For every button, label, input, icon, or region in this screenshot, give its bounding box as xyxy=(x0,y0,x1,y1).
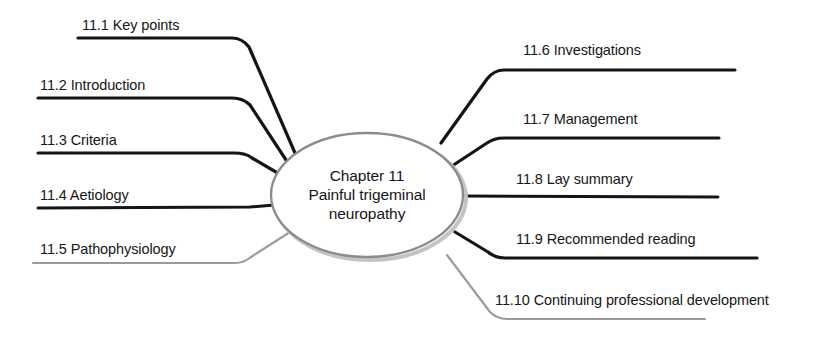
branch-paths-right xyxy=(441,70,757,319)
branch-paths-left xyxy=(33,38,295,263)
center-node-line-2: Painful trigeminal xyxy=(271,185,463,204)
branch-line-11-7[interactable] xyxy=(452,138,719,166)
branch-label-11-2[interactable]: 11.2 Introduction xyxy=(40,78,145,93)
branch-label-11-3[interactable]: 11.3 Criteria xyxy=(40,133,117,148)
branch-label-11-10[interactable]: 11.10 Continuing professional developmen… xyxy=(495,293,769,308)
branch-label-11-9[interactable]: 11.9 Recommended reading xyxy=(516,232,696,247)
branch-line-11-4[interactable] xyxy=(38,205,274,208)
branch-label-11-6[interactable]: 11.6 Investigations xyxy=(523,43,641,58)
center-node-line-1: Chapter 11 xyxy=(271,166,463,185)
branch-line-11-8[interactable] xyxy=(463,196,718,197)
branch-label-11-1[interactable]: 11.1 Key points xyxy=(82,18,179,33)
branch-line-11-3[interactable] xyxy=(38,153,281,175)
branch-label-11-7[interactable]: 11.7 Management xyxy=(523,112,637,127)
branch-label-11-8[interactable]: 11.8 Lay summary xyxy=(516,172,633,187)
mind-map-canvas: 11.1 Key points11.2 Introduction11.3 Cri… xyxy=(0,0,823,347)
branch-label-11-5[interactable]: 11.5 Pathophysiology xyxy=(40,242,176,257)
branch-line-11-6[interactable] xyxy=(441,70,735,143)
center-node-text: Chapter 11 Painful trigeminal neuropathy xyxy=(271,166,463,223)
center-node-line-3: neuropathy xyxy=(271,204,463,223)
branch-label-11-4[interactable]: 11.4 Aetiology xyxy=(40,188,129,203)
branch-line-11-10[interactable] xyxy=(447,255,705,319)
